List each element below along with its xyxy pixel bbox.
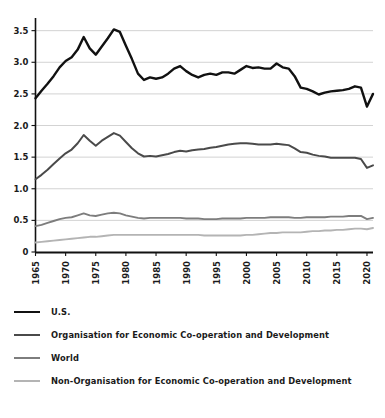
legend-swatch-line-icon xyxy=(14,311,40,313)
x-axis-tick-labels: 1965197019751980198519901995200020052010… xyxy=(31,261,372,285)
svg-text:2010: 2010 xyxy=(302,261,312,285)
svg-text:3.0: 3.0 xyxy=(13,57,28,67)
y-axis-tick-labels: 00.51.01.52.02.53.03.5 xyxy=(13,26,28,257)
svg-text:2.0: 2.0 xyxy=(13,121,28,131)
legend-item-world[interactable]: World xyxy=(0,346,385,369)
data-series-lines xyxy=(36,29,374,242)
svg-text:2015: 2015 xyxy=(332,261,342,285)
chart-legend: U.S. Organisation for Economic Co-operat… xyxy=(0,300,385,418)
legend-label: World xyxy=(51,353,79,363)
legend-item-us[interactable]: U.S. xyxy=(0,300,385,323)
plot-area: 00.51.01.52.02.53.03.5 19651970197519801… xyxy=(0,0,385,300)
svg-text:2020: 2020 xyxy=(362,261,372,285)
svg-text:1990: 1990 xyxy=(182,261,192,285)
svg-text:1975: 1975 xyxy=(91,261,101,285)
legend-swatch-line-icon xyxy=(14,357,40,359)
svg-text:3.5: 3.5 xyxy=(13,26,28,36)
svg-text:1985: 1985 xyxy=(152,261,162,285)
legend-label: U.S. xyxy=(51,307,70,317)
svg-text:1980: 1980 xyxy=(121,261,131,285)
svg-text:2000: 2000 xyxy=(242,261,252,285)
legend-item-oecd[interactable]: Organisation for Economic Co-operation a… xyxy=(0,323,385,346)
legend-label: Organisation for Economic Co-operation a… xyxy=(51,330,329,340)
legend-label: Non-Organisation for Economic Co-operati… xyxy=(51,376,352,386)
legend-item-non-oecd[interactable]: Non-Organisation for Economic Co-operati… xyxy=(0,369,385,392)
svg-text:2005: 2005 xyxy=(272,261,282,285)
svg-text:1.5: 1.5 xyxy=(13,152,28,162)
svg-text:0: 0 xyxy=(23,247,29,257)
svg-text:0.5: 0.5 xyxy=(13,215,28,225)
svg-text:1.0: 1.0 xyxy=(13,184,28,194)
legend-swatch-line-icon xyxy=(14,380,40,382)
svg-text:1970: 1970 xyxy=(61,261,71,285)
svg-text:2.5: 2.5 xyxy=(13,89,28,99)
line-chart-figure: 00.51.01.52.02.53.03.5 19651970197519801… xyxy=(0,0,385,418)
legend-swatch-line-icon xyxy=(14,334,40,336)
svg-text:1995: 1995 xyxy=(212,261,222,285)
svg-text:1965: 1965 xyxy=(31,261,41,285)
